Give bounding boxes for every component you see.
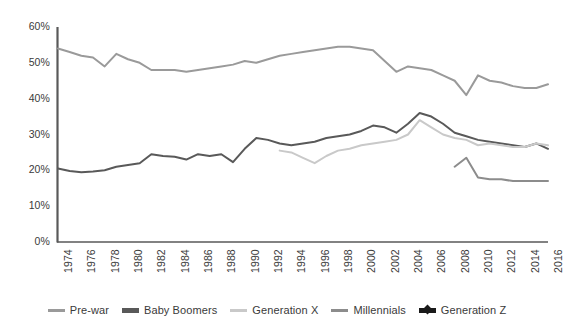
data-series-group [58,47,548,181]
legend-item-label: Pre-war [70,304,109,316]
legend-color-swatch [48,309,65,312]
x-axis-tick-label: 2010 [482,249,494,273]
y-axis-tick-label: 0% [10,235,50,247]
legend-color-swatch [331,309,348,312]
y-axis-tick-label: 60% [10,20,50,32]
chart-legend: Pre-warBaby BoomersGeneration XMillennia… [0,298,554,322]
legend-item-label: Generation X [252,304,318,316]
x-axis-tick-label: 1996 [319,249,331,273]
x-axis-tick-label: 1984 [179,249,191,273]
x-axis-tick-label: 2004 [412,249,424,273]
x-axis-tick-label: 1998 [342,249,354,273]
x-axis-tick-label: 1974 [62,249,74,273]
legend-item-label: Baby Boomers [144,304,217,316]
x-axis-tick-label: 1980 [132,249,144,273]
series-line [58,47,548,95]
x-axis-tick-label: 1982 [155,249,167,273]
series-line [280,120,548,163]
legend-color-swatch [230,309,247,312]
x-axis-tick-label: 2014 [529,249,541,273]
legend-item-label: Millennials [353,304,405,316]
y-axis-tick-label: 50% [10,56,50,68]
series-line [455,158,548,181]
legend-item[interactable]: Generation Z [419,304,506,316]
x-axis-tick-label: 2002 [389,249,401,273]
x-axis-tick-label: 1978 [109,249,121,273]
x-axis-tick-label: 2016 [552,249,564,273]
legend-item[interactable]: Generation X [230,304,318,316]
legend-item-label: Generation Z [441,304,506,316]
y-axis-tick-label: 40% [10,92,50,104]
legend-color-swatch [122,308,139,313]
legend-item[interactable]: Millennials [331,304,405,316]
x-axis-tick-label: 1990 [249,249,261,273]
x-axis-tick-label: 2006 [435,249,447,273]
x-axis-tick-label: 1976 [85,249,97,273]
x-axis-tick-label: 1992 [272,249,284,273]
legend-color-swatch [419,308,436,313]
y-axis-tick-label: 20% [10,163,50,175]
legend-item[interactable]: Baby Boomers [122,304,217,316]
x-axis-tick-label: 1986 [202,249,214,273]
y-axis-tick-label: 10% [10,199,50,211]
x-axis-tick-label: 1994 [295,249,307,273]
x-axis-tick-label: 1988 [225,249,237,273]
x-axis-tick-label: 2012 [505,249,517,273]
legend-item[interactable]: Pre-war [48,304,109,316]
x-axis-tick-label: 2008 [459,249,471,273]
y-axis-tick-label: 30% [10,128,50,140]
x-axis-tick-label: 2000 [365,249,377,273]
